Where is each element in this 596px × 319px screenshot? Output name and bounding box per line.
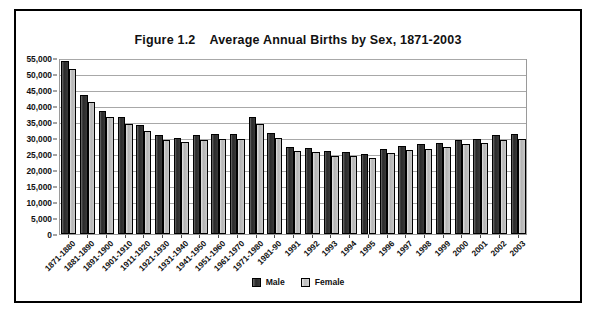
x-axis-tick-mark <box>461 235 462 238</box>
figure-card: Figure 1.2Average Annual Births by Sex, … <box>14 9 582 303</box>
x-axis-tick-label: 1998 <box>414 239 433 258</box>
bar-group <box>228 60 247 234</box>
bar-group <box>397 60 416 234</box>
bar-male <box>61 61 68 234</box>
bar-group <box>453 60 472 234</box>
legend-label: Male <box>266 277 285 287</box>
x-axis-tick-mark <box>368 235 369 238</box>
legend-item: Female <box>301 277 345 287</box>
bar-group <box>303 60 322 234</box>
bar-male <box>249 117 256 234</box>
bar-male <box>342 152 349 234</box>
y-axis: 05,00010,00015,00020,00025,00030,00035,0… <box>16 59 57 235</box>
bar-group <box>491 60 510 234</box>
x-axis-tick-mark <box>480 235 481 238</box>
bar-female <box>163 140 170 234</box>
x-axis-tick-mark <box>218 235 219 238</box>
bar-male <box>361 154 368 234</box>
y-axis-tick-mark <box>53 187 57 188</box>
bar-male <box>136 125 143 234</box>
bar-male <box>324 151 331 234</box>
bar-male <box>455 140 462 234</box>
bar-male <box>417 144 424 234</box>
chart-legend: MaleFemale <box>16 277 580 287</box>
x-axis-tick-mark <box>106 235 107 238</box>
x-axis-tick-mark <box>499 235 500 238</box>
bar-male <box>230 134 237 234</box>
bar-group <box>472 60 491 234</box>
x-axis-tick-label: 1991 <box>283 239 302 258</box>
y-axis-tick-label: 55,000 <box>26 54 52 64</box>
bar-female <box>406 150 413 234</box>
x-axis-tick-mark <box>405 235 406 238</box>
y-axis-tick-mark <box>53 75 57 76</box>
bar-female <box>275 138 282 234</box>
bar-male <box>118 117 125 234</box>
x-axis-tick-mark <box>199 235 200 238</box>
y-axis-tick-mark <box>53 91 57 92</box>
x-axis-tick-mark <box>68 235 69 238</box>
x-axis-tick-mark <box>237 235 238 238</box>
bar-female <box>219 139 226 234</box>
figure-title-text: Average Annual Births by Sex, 1871-2003 <box>209 33 461 47</box>
y-axis-tick-mark <box>53 123 57 124</box>
y-axis-tick-mark <box>53 59 57 60</box>
x-axis-tick-mark <box>143 235 144 238</box>
bar-group <box>116 60 135 234</box>
bar-female <box>88 102 95 234</box>
bar-group <box>360 60 379 234</box>
page-title: Figure 1.2Average Annual Births by Sex, … <box>16 33 580 47</box>
y-axis-tick-label: 0 <box>47 230 52 240</box>
bar-group <box>322 60 341 234</box>
x-axis-tick-label: 1994 <box>339 239 358 258</box>
bar-female <box>500 140 507 234</box>
x-axis-tick-label: 1992 <box>302 239 321 258</box>
x-axis-tick-mark <box>293 235 294 238</box>
bar-female <box>387 153 394 234</box>
bar-group <box>416 60 435 234</box>
bar-male <box>380 149 387 234</box>
bar-female <box>443 147 450 234</box>
bar-group <box>378 60 397 234</box>
bar-female <box>294 151 301 234</box>
bar-male <box>398 146 405 234</box>
x-axis-tick-mark <box>181 235 182 238</box>
x-axis-tick-mark <box>330 235 331 238</box>
bar-female <box>462 144 469 234</box>
bar-male <box>267 133 274 234</box>
bar-female <box>256 124 263 234</box>
x-axis-tick-mark <box>274 235 275 238</box>
bar-female <box>181 142 188 234</box>
bar-male <box>80 95 87 234</box>
bar-male <box>211 134 218 234</box>
bar-female <box>331 156 338 234</box>
bar-female <box>200 140 207 234</box>
bar-group <box>60 60 79 234</box>
x-axis-tick-label: 2003 <box>508 239 527 258</box>
y-axis-tick-label: 50,000 <box>26 70 52 80</box>
bar-group <box>247 60 266 234</box>
bar-male <box>473 139 480 234</box>
bar-group <box>434 60 453 234</box>
legend-swatch-male <box>252 278 261 287</box>
x-axis-tick-mark <box>518 235 519 238</box>
x-axis-tick-label: 1999 <box>433 239 452 258</box>
y-axis-tick-mark <box>53 155 57 156</box>
x-axis-tick-label: 1993 <box>321 239 340 258</box>
bars-layer <box>60 60 526 234</box>
legend-label: Female <box>315 277 345 287</box>
x-axis-tick-mark <box>424 235 425 238</box>
legend-item: Male <box>252 277 285 287</box>
bar-male <box>286 147 293 234</box>
bar-male <box>174 138 181 234</box>
bar-female <box>481 143 488 234</box>
bar-female <box>369 158 376 234</box>
x-axis-tick-label: 2002 <box>489 239 508 258</box>
bar-group <box>79 60 98 234</box>
x-axis-tick-mark <box>387 235 388 238</box>
bar-group <box>135 60 154 234</box>
x-axis-tick-mark <box>162 235 163 238</box>
y-axis-tick-label: 20,000 <box>26 166 52 176</box>
plot-area <box>59 59 527 235</box>
bar-female <box>106 117 113 234</box>
